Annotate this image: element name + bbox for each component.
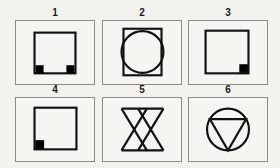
panel-1-figure: [16, 21, 94, 84]
panel-5[interactable]: 5: [102, 84, 182, 162]
panel-2[interactable]: 2: [102, 7, 182, 85]
panel-5-label: 5: [102, 84, 182, 95]
corner-marker-bottom-right: [239, 64, 248, 73]
corner-marker-bottom-right: [66, 65, 74, 73]
panel-6[interactable]: 6: [188, 84, 268, 162]
panel-4-label: 4: [15, 84, 95, 95]
panel-1[interactable]: 1: [15, 7, 95, 85]
outer-circle: [207, 109, 249, 151]
panel-2-figure: [103, 21, 181, 84]
panel-5-figure: [103, 98, 181, 161]
panel-4-frame: [15, 97, 95, 162]
panel-3[interactable]: 3: [188, 7, 268, 85]
figure-sheet: 1 2 3 4: [0, 0, 280, 168]
panel-4[interactable]: 4: [15, 84, 95, 162]
corner-marker-bottom-left: [36, 65, 44, 73]
panel-1-label: 1: [15, 7, 95, 18]
panel-6-figure: [189, 98, 267, 161]
panel-4-figure: [16, 98, 94, 161]
corner-marker-bottom-left: [35, 140, 44, 149]
panel-1-frame: [15, 20, 95, 85]
panel-6-frame: [188, 97, 268, 162]
panel-3-label: 3: [188, 7, 268, 18]
panel-5-frame: [102, 97, 182, 162]
panel-3-figure: [189, 21, 267, 84]
panel-2-frame: [102, 20, 182, 85]
panel-6-label: 6: [188, 84, 268, 95]
panel-2-label: 2: [102, 7, 182, 18]
panel-3-frame: [188, 20, 268, 85]
inscribed-circle: [122, 31, 164, 73]
